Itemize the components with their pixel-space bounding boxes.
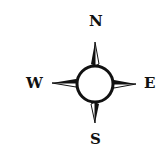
north-point [91,42,99,66]
south-point [91,102,99,123]
east-point [112,80,136,88]
east-label: E [144,76,155,91]
west-point [52,79,78,87]
west-label: W [26,76,43,91]
center-circle [77,66,113,102]
north-label: N [89,14,103,29]
compass-rose: N S W E [0,0,167,163]
south-label: S [90,132,101,147]
